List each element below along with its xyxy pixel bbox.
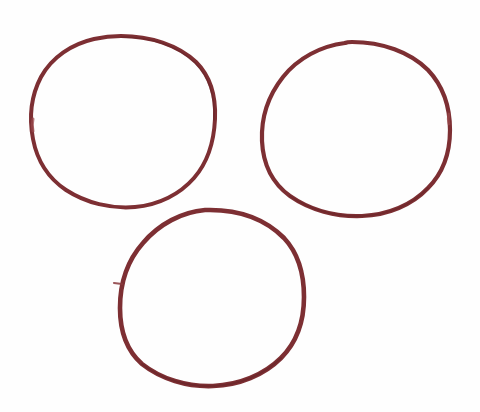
pen-start-spur [114, 283, 122, 284]
top-left-circle-left-gap [32, 119, 33, 131]
top-right-circle-right-nick [448, 114, 449, 124]
sketch-svg [0, 0, 480, 412]
paper-background [0, 0, 480, 412]
drawing-canvas: Three hand-drawn circles [0, 0, 480, 412]
